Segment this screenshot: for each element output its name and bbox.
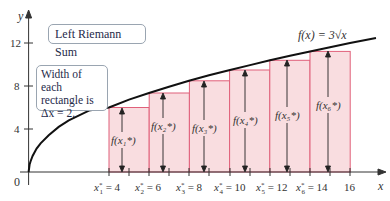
- rect-label-3: f(x₃*): [192, 122, 217, 135]
- x-tick-label-6: x*6 = 14: [295, 181, 328, 196]
- origin-label: 0: [14, 175, 20, 189]
- x-tick-label-2: x*2 = 6: [134, 181, 162, 196]
- x-tick-label-5: x*5 = 12: [255, 181, 288, 196]
- y-tick-8: 8: [14, 80, 20, 92]
- title-box: Left Riemann Sum: [48, 24, 146, 44]
- width-line-3: Δx = 2.: [41, 107, 105, 120]
- rect-label-2: f(x₂*): [151, 120, 176, 133]
- x-axis-label: x: [377, 179, 384, 193]
- y-tick-12: 12: [10, 37, 21, 49]
- width-annotation-box: Width of each rectangle is Δx = 2.: [36, 65, 108, 111]
- x-tick-label-3: x*3 = 8: [175, 181, 203, 196]
- y-axis-arrow-icon: [26, 10, 32, 18]
- x-tick-label-4: x*4 = 10: [213, 181, 246, 196]
- rect-label-4: f(x₄*): [233, 114, 258, 127]
- function-label: f(x) = 3√x: [298, 28, 347, 42]
- y-axis-label: y: [17, 9, 24, 23]
- rect-label-1: f(x₁*): [111, 134, 136, 147]
- y-tick-4: 4: [14, 123, 20, 135]
- rect-label-6: f(x₆*): [316, 99, 341, 112]
- x-tick-label-1: x*1 = 4: [93, 181, 121, 196]
- rect-label-5: f(x₅*): [275, 109, 300, 122]
- x-tick-16: 16: [344, 181, 356, 193]
- x-axis-arrow-icon: [378, 169, 386, 175]
- width-line-2: rectangle is: [41, 94, 105, 107]
- width-line-1: Width of each: [41, 68, 105, 94]
